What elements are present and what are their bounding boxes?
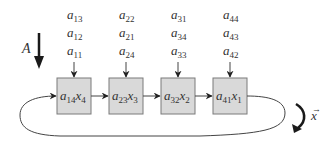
matrix-a-indicator: A	[21, 33, 44, 69]
input-label: a34	[171, 25, 187, 42]
input-label: a24	[119, 43, 135, 60]
input-label: a42	[223, 43, 239, 60]
vector-rotation-indicator: → x	[292, 104, 321, 133]
matrix-label: A	[21, 41, 31, 56]
processing-cell-1: a13 a12 a11 a14x4	[57, 7, 91, 114]
input-column-4: a44 a43 a42	[223, 7, 239, 60]
input-label: a11	[67, 43, 82, 60]
input-column-2: a22 a21 a24	[119, 7, 135, 60]
processing-cell-2: a22 a21 a24 a23x3	[109, 7, 143, 114]
input-label: a21	[119, 25, 135, 42]
curved-arrow-icon	[296, 104, 304, 128]
processing-cell-4: a44 a43 a42 a41x1	[213, 7, 247, 114]
processing-cell-3: a31 a34 a33 a32x2	[161, 7, 195, 114]
input-column-1: a13 a12 a11	[67, 7, 83, 60]
input-label: a13	[67, 7, 83, 24]
input-label: a22	[119, 7, 135, 24]
input-label: a31	[171, 7, 187, 24]
input-label: a43	[223, 25, 239, 42]
systolic-array-diagram: A a13 a12 a11 a14x4 a22 a21 a24 a23x3 a3…	[0, 0, 333, 142]
input-label: a12	[67, 25, 83, 42]
down-arrow-head-icon	[34, 56, 44, 69]
input-label: a44	[223, 7, 239, 24]
vector-label: x	[310, 108, 317, 123]
input-label: a33	[171, 43, 187, 60]
input-column-3: a31 a34 a33	[171, 7, 187, 60]
